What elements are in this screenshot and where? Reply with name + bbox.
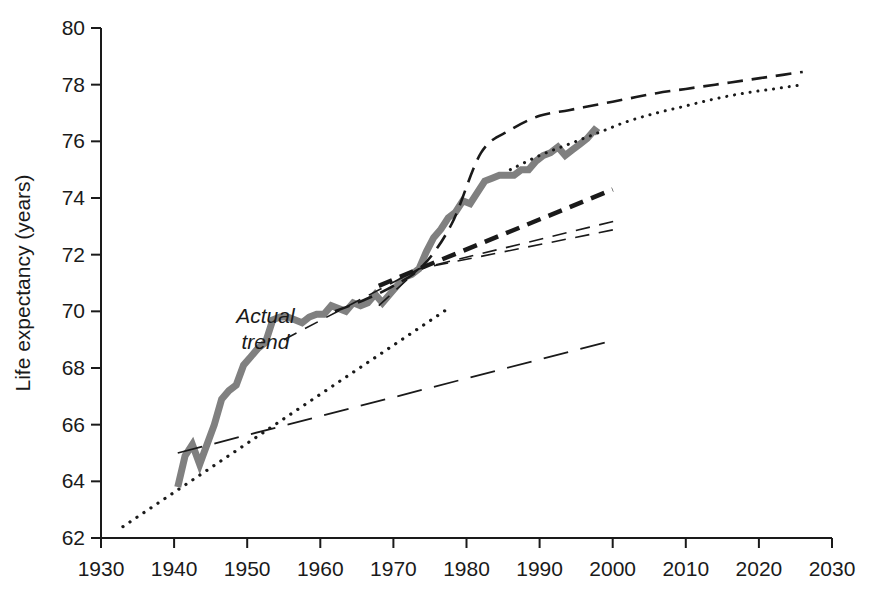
annotation-actual-trend: Actualtrend	[234, 304, 296, 353]
series-line	[178, 340, 617, 453]
x-tick-label: 2010	[662, 557, 709, 580]
y-tick-label: 62	[62, 526, 85, 549]
x-tick-label: 1990	[516, 557, 563, 580]
annotation-line-1: Actual	[234, 304, 296, 327]
y-axis-title: Life expectancy (years)	[11, 174, 34, 391]
y-tick-label: 80	[62, 16, 85, 39]
y-tick-label: 72	[62, 243, 85, 266]
y-tick-label: 78	[62, 73, 85, 96]
x-tick-label: 1980	[443, 557, 490, 580]
life-expectancy-chart: 6264666870727476788019301940195019601970…	[0, 0, 871, 599]
y-tick-label: 66	[62, 413, 85, 436]
series-line	[379, 221, 617, 306]
x-tick-label: 1930	[78, 557, 125, 580]
y-tick-label: 64	[62, 469, 86, 492]
x-tick-label: 2030	[809, 557, 856, 580]
x-tick-label: 1960	[297, 557, 344, 580]
y-tick-label: 70	[62, 299, 85, 322]
y-tick-label: 68	[62, 356, 85, 379]
series-line	[284, 229, 617, 340]
y-tick-label: 74	[62, 186, 86, 209]
chart-plot-area: 6264666870727476788019301940195019601970…	[0, 0, 871, 599]
x-tick-label: 1950	[224, 557, 271, 580]
x-tick-label: 1970	[370, 557, 417, 580]
series-line	[510, 85, 802, 170]
x-tick-label: 1940	[151, 557, 198, 580]
annotation-line-2: trend	[242, 330, 291, 353]
x-tick-label: 2020	[736, 557, 783, 580]
x-tick-label: 2000	[589, 557, 636, 580]
y-tick-label: 76	[62, 129, 85, 152]
axis-spines	[101, 28, 832, 538]
